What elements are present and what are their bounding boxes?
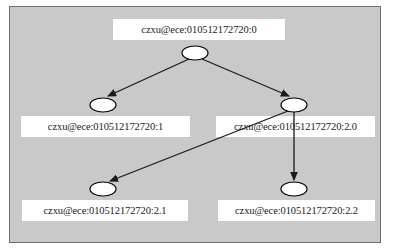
node-label-root: czxu@ece:010512172720:0 bbox=[113, 19, 285, 40]
node-label-child2: czxu@ece:010512172720:2.0 bbox=[216, 116, 375, 137]
node-child22-ellipse[interactable] bbox=[281, 182, 307, 196]
node-label-child1: czxu@ece:010512172720:1 bbox=[21, 116, 190, 137]
node-root-ellipse[interactable] bbox=[182, 46, 208, 60]
node-label-child22: czxu@ece:010512172720:2.2 bbox=[218, 200, 375, 221]
diagram-screenshot: czxu@ece:010512172720:0 czxu@ece:0105121… bbox=[0, 0, 394, 252]
node-child21-ellipse[interactable] bbox=[90, 182, 116, 196]
node-child2-ellipse[interactable] bbox=[281, 98, 307, 112]
node-label-child21: czxu@ece:010512172720:2.1 bbox=[22, 200, 188, 221]
node-child1-ellipse[interactable] bbox=[90, 98, 116, 112]
edge-root-to-child1 bbox=[108, 59, 189, 96]
edge-root-to-child2 bbox=[202, 59, 289, 96]
